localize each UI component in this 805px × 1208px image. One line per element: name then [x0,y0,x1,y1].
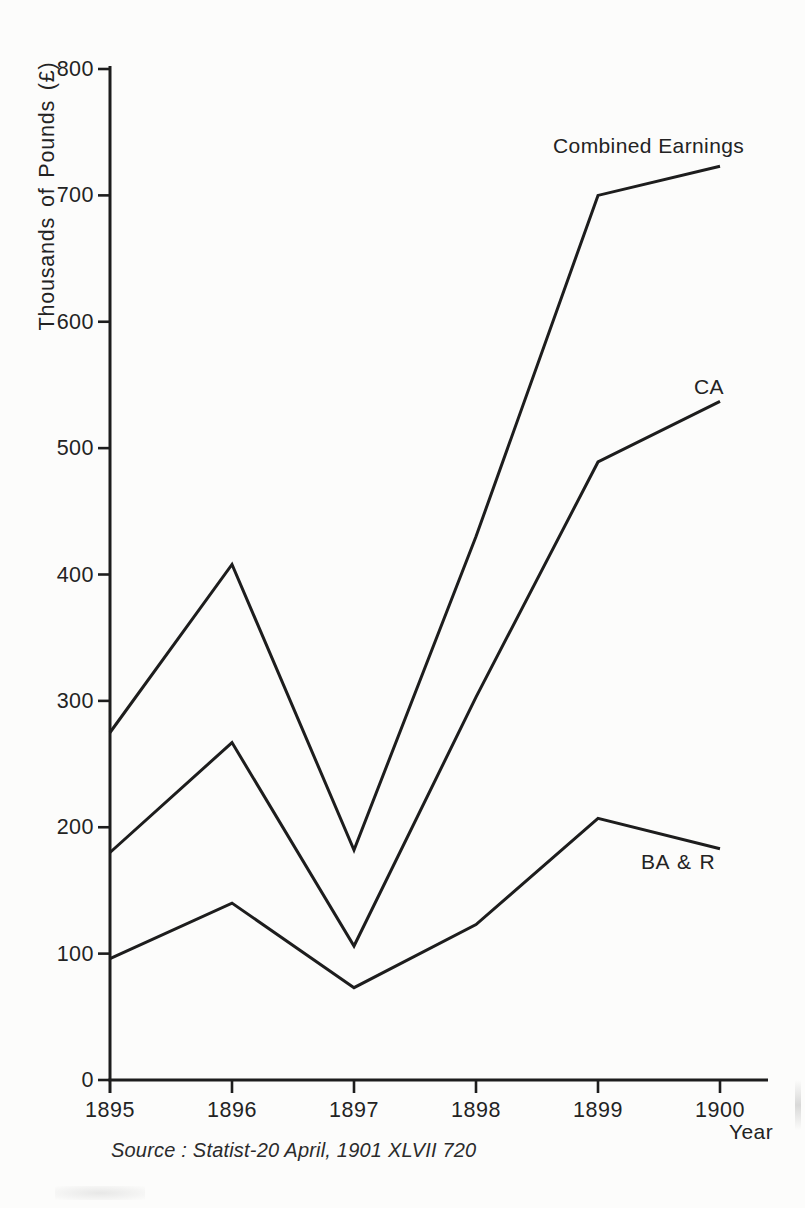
y-tick-label-500: 500 [57,436,94,460]
series-line-ba-r [110,818,720,987]
x-tick-label-1900: 1900 [695,1098,745,1122]
series-line-combined-earnings [110,166,720,850]
scanned-page: 0100200300400500600700800189518961897189… [0,0,805,1208]
x-tick-label-1895: 1895 [85,1098,135,1122]
y-axis-title: Thousands of Pounds (£) [35,62,60,331]
y-tick-label-200: 200 [57,815,94,839]
source-note: Source : Statist-20 April, 1901 XLVII 72… [111,1139,476,1162]
x-tick-label-1898: 1898 [451,1098,501,1122]
y-tick-label-400: 400 [57,563,94,587]
y-tick-label-100: 100 [57,942,94,966]
y-tick-label-0: 0 [82,1068,94,1092]
x-tick-label-1897: 1897 [329,1098,379,1122]
scan-artifact-bottom-smudge [55,1186,145,1200]
y-tick-label-800: 800 [57,57,94,81]
series-line-ca [110,401,720,946]
x-tick-label-1896: 1896 [207,1098,257,1122]
series-label-ca: CA [694,375,724,399]
scan-artifact-right-edge [795,1080,801,1130]
line-chart: 0100200300400500600700800189518961897189… [0,0,805,1208]
chart-canvas: 0100200300400500600700800189518961897189… [0,0,805,1208]
y-tick-label-700: 700 [57,183,94,207]
x-tick-label-1899: 1899 [573,1098,623,1122]
y-tick-label-600: 600 [57,310,94,334]
y-tick-label-300: 300 [57,689,94,713]
series-label-ba-and-r: BA & R [641,850,715,874]
x-axis-title: Year [729,1120,773,1144]
series-label-combined-earnings: Combined Earnings [553,134,744,158]
